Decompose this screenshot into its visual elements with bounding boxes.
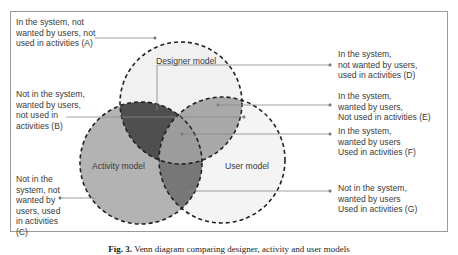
- activity-model-label: Activity model: [92, 161, 145, 171]
- label-region-g: Not in the system, wanted by users Used …: [338, 183, 417, 215]
- designer-model-label: Designer model: [156, 56, 216, 66]
- caption-text: Venn diagram comparing designer, activit…: [134, 244, 350, 254]
- label-region-e: In the system, wanted by users, Not used…: [338, 91, 431, 123]
- label-region-f: In the system, wanted by users Used in a…: [338, 126, 416, 158]
- figure-caption: Fig. 3. Venn diagram comparing designer,…: [0, 244, 458, 254]
- label-region-a: In the system, not wanted by users, not …: [16, 17, 95, 49]
- label-region-d: In the system, not wanted by users, used…: [338, 49, 417, 81]
- label-region-b: Not in the system, wanted by users, not …: [16, 89, 85, 131]
- caption-prefix: Fig. 3.: [108, 244, 132, 254]
- label-region-c: Not in the system, not wanted by users, …: [16, 174, 60, 238]
- user-model-label: User model: [225, 161, 269, 171]
